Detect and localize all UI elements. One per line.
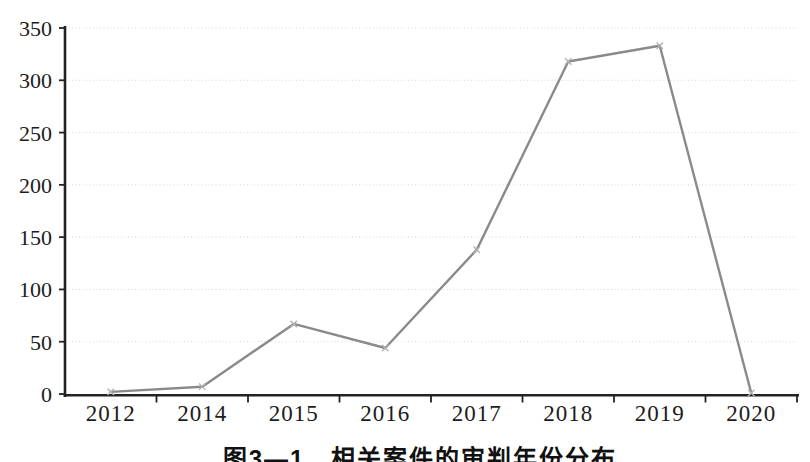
x-tick-label: 2015	[269, 401, 319, 426]
x-tick-label: 2017	[452, 401, 502, 426]
y-tick-label: 200	[19, 173, 52, 198]
y-tick-label: 50	[30, 330, 52, 355]
data-line	[111, 46, 752, 393]
figure-caption: 图3—1 相关案件的审判年份分布	[30, 445, 810, 462]
y-tick-label: 300	[19, 68, 52, 93]
y-tick-label: 350	[19, 16, 52, 41]
y-tick-label: 250	[19, 121, 52, 146]
x-tick-label: 2020	[726, 401, 776, 426]
x-tick-label: 2016	[360, 401, 410, 426]
line-chart: 0501001502002503003502012201420152016201…	[0, 0, 810, 440]
chart-figure: 0501001502002503003502012201420152016201…	[0, 0, 810, 462]
x-tick-label: 2019	[635, 401, 685, 426]
y-tick-label: 100	[19, 277, 52, 302]
y-tick-label: 0	[41, 382, 52, 407]
y-tick-label: 150	[19, 225, 52, 250]
x-tick-label: 2014	[177, 401, 227, 426]
x-tick-label: 2018	[543, 401, 593, 426]
x-tick-label: 2012	[86, 401, 136, 426]
